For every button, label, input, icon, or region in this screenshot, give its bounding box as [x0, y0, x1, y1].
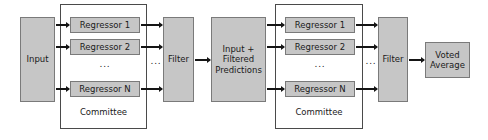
- arrow-regressor-2-1-to-filter-2: [356, 24, 377, 26]
- intermediate-box-line-3: Predictions: [215, 65, 262, 75]
- diagram-canvas: Input Regressor 1 Regressor 2 ... Regres…: [0, 0, 488, 140]
- arrow-regressor-1-2-to-filter-1: [141, 46, 162, 48]
- arrow-middle-to-regressor-2: [267, 46, 284, 48]
- arrow-filter-1-to-middle: [195, 59, 210, 61]
- input-box-label: Input: [26, 54, 48, 64]
- arrow-input-to-regressor-1: [56, 24, 69, 26]
- voted-average-box: Voted Average: [425, 42, 470, 78]
- regressor-label: Regressor 2: [295, 42, 345, 52]
- input-box: Input: [20, 17, 55, 102]
- arrow-input-to-regressor-n: [56, 88, 69, 90]
- regressor-box-1-1: Regressor 1: [70, 17, 140, 33]
- bus-ellipsis-2: ...: [363, 57, 379, 66]
- intermediate-box-line-1: Input +: [223, 44, 255, 54]
- regressor-label: Regressor 1: [80, 20, 130, 30]
- regressor-label: Regressor N: [79, 84, 130, 94]
- arrow-regressor-1-n-to-filter-1: [141, 88, 162, 90]
- arrow-middle-to-regressor-n: [267, 88, 284, 90]
- committee-ellipsis-1: ...: [70, 60, 140, 69]
- intermediate-box: Input + Filtered Predictions: [211, 17, 266, 102]
- arrow-regressor-2-n-to-filter-2: [356, 88, 377, 90]
- regressor-box-2-2: Regressor 2: [285, 39, 355, 55]
- regressor-label: Regressor 2: [80, 42, 130, 52]
- filter-box-1: Filter: [163, 17, 194, 102]
- filter-box-2: Filter: [378, 17, 408, 102]
- voted-average-line-2: Average: [430, 60, 465, 70]
- voted-average-line-1: Voted: [435, 50, 459, 60]
- regressor-label: Regressor N: [294, 84, 345, 94]
- filter-box-2-label: Filter: [382, 54, 403, 64]
- regressor-box-2-n: Regressor N: [285, 81, 355, 97]
- committee-label-1: Committee: [60, 107, 147, 117]
- arrow-filter-2-to-output: [409, 59, 424, 61]
- committee-label-2: Committee: [275, 107, 363, 117]
- committee-ellipsis-2: ...: [285, 60, 355, 69]
- filter-box-1-label: Filter: [168, 54, 189, 64]
- regressor-box-2-1: Regressor 1: [285, 17, 355, 33]
- arrow-regressor-2-2-to-filter-2: [356, 46, 377, 48]
- regressor-box-1-2: Regressor 2: [70, 39, 140, 55]
- intermediate-box-line-2: Filtered: [223, 54, 255, 64]
- regressor-label: Regressor 1: [295, 20, 345, 30]
- arrow-middle-to-regressor-1: [267, 24, 284, 26]
- regressor-box-1-n: Regressor N: [70, 81, 140, 97]
- bus-ellipsis-1: ...: [148, 57, 164, 66]
- arrow-regressor-1-1-to-filter-1: [141, 24, 162, 26]
- arrow-input-to-regressor-2: [56, 46, 69, 48]
